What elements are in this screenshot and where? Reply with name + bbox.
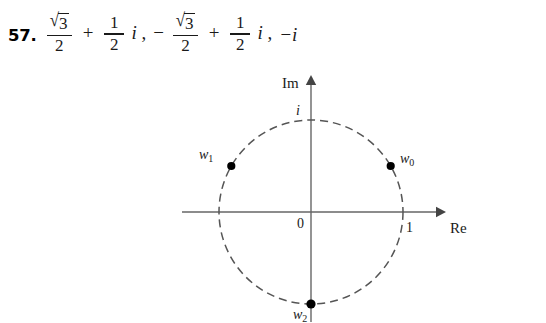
origin-label: 0 [297, 216, 304, 231]
tick-label-i: i [296, 103, 300, 118]
imaginary-axis-label: Im [282, 75, 299, 91]
real-axis-arrowhead [436, 207, 446, 217]
point-w0-label: w0 [400, 151, 414, 168]
point-w1-label-subscript: 1 [208, 153, 213, 164]
point-w1-marker [227, 162, 235, 170]
imaginary-axis-arrowhead [306, 75, 316, 85]
point-w2-label-subscript: 2 [302, 313, 307, 323]
point-w1-label: w1 [199, 147, 213, 164]
point-w0-marker [387, 162, 395, 170]
point-w2-label: w2 [293, 307, 307, 323]
argand-diagram-svg: Im Re 0 i 1 w0 w1 w2 [0, 0, 546, 323]
tick-label-1: 1 [406, 220, 413, 235]
point-w2-marker [306, 299, 315, 308]
real-axis-label: Re [450, 220, 467, 236]
point-w0-label-subscript: 0 [409, 157, 414, 168]
argand-diagram: Im Re 0 i 1 w0 w1 w2 [0, 0, 546, 323]
